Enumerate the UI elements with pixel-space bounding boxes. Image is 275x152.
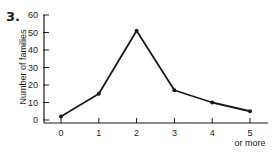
data-point bbox=[59, 115, 63, 119]
y-tick-label: 30 bbox=[28, 63, 38, 73]
data-point bbox=[248, 109, 252, 113]
y-tick-label: 50 bbox=[28, 28, 38, 38]
x-tick-sublabel: or more bbox=[234, 138, 265, 148]
y-tick-label: 60 bbox=[28, 10, 38, 20]
data-point bbox=[172, 88, 176, 92]
y-tick-label: 0 bbox=[33, 115, 38, 125]
data-point bbox=[210, 101, 214, 105]
line-chart: 0102030405060012345or more bbox=[0, 0, 275, 152]
y-tick-label: 10 bbox=[28, 98, 38, 108]
x-tick-label: 5 bbox=[247, 128, 252, 138]
data-point bbox=[97, 92, 101, 96]
y-tick-label: 40 bbox=[28, 45, 38, 55]
x-tick-label: 3 bbox=[172, 128, 177, 138]
y-tick-label: 20 bbox=[28, 80, 38, 90]
data-point bbox=[135, 29, 139, 33]
data-line bbox=[61, 31, 250, 117]
x-tick-label: 4 bbox=[210, 128, 215, 138]
x-tick-label: 0 bbox=[58, 128, 63, 138]
x-tick-label: 1 bbox=[96, 128, 101, 138]
x-tick-label: 2 bbox=[134, 128, 139, 138]
